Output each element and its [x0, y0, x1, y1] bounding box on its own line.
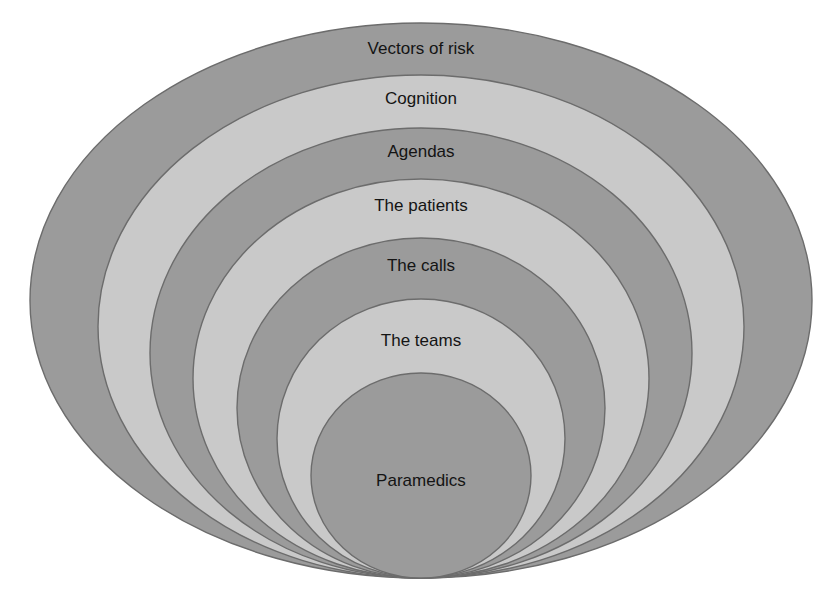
label-the-calls: The calls — [387, 256, 455, 275]
label-the-patients: The patients — [374, 196, 468, 215]
nested-risk-diagram: Vectors of risk Cognition Agendas The pa… — [0, 0, 839, 596]
label-cognition: Cognition — [385, 89, 457, 108]
label-agendas: Agendas — [387, 142, 454, 161]
layer-paramedics: Paramedics — [311, 373, 531, 578]
label-the-teams: The teams — [381, 331, 461, 350]
label-vectors-of-risk: Vectors of risk — [368, 39, 475, 58]
label-paramedics: Paramedics — [376, 471, 466, 490]
